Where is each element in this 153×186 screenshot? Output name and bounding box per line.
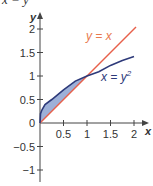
x-axis-label: x — [144, 125, 152, 137]
chart: 0.5 1 1.5 2 x 2 1.5 1 0.5 0 −0.5 −1 y y … — [0, 0, 153, 186]
y-axis-label: y — [29, 11, 37, 23]
line-label: y = x — [85, 29, 113, 43]
y-tick-label: −0.5 — [13, 141, 35, 153]
curve-label-exponent: 2 — [126, 69, 132, 78]
y-axis-arrow-icon — [37, 12, 43, 19]
curve-x-equals-y-squared — [40, 57, 134, 124]
y-tick-label: 1 — [29, 70, 35, 82]
y-tick-label: 2 — [29, 23, 35, 35]
curve-label: x = y2 — [100, 69, 132, 84]
y-tick-label: 1.5 — [20, 47, 35, 59]
x-tick-label: 1 — [84, 128, 90, 140]
x-tick-label: 2 — [131, 128, 137, 140]
x-tick-label: 0.5 — [56, 128, 71, 140]
curve-label-base: x = y — [100, 70, 128, 84]
y-tick-label: −1 — [22, 164, 35, 176]
y-tick-label: 0.5 — [20, 94, 35, 106]
y-tick-label: 0 — [29, 117, 35, 129]
x-tick-label: 1.5 — [103, 128, 118, 140]
